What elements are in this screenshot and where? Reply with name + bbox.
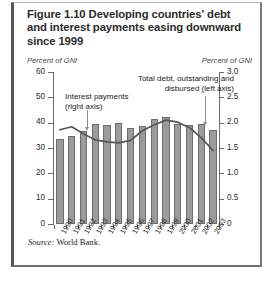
annotation-interest-line2: (right axis) (65, 102, 102, 111)
left-tick-label-60: 60 (23, 67, 45, 76)
annotation-total-line2: disbursed (left axis) (165, 84, 234, 93)
left-axis-unit-label: Percent of GNI (27, 56, 77, 65)
right-tick-label-1.0: 1.0 (227, 168, 238, 177)
right-tick-label-0.5: 0.5 (227, 193, 238, 202)
left-tick-20 (48, 173, 53, 174)
left-tick-label-30: 30 (23, 143, 45, 152)
right-tick-2.5 (219, 97, 224, 98)
leader-line-total (205, 96, 206, 123)
source-note: Source: World Bank. (28, 237, 100, 247)
left-tick-label-50: 50 (23, 92, 45, 101)
figure-title: Figure 1.10 Developing countries' debt a… (27, 8, 253, 48)
left-tick-label-10: 10 (23, 193, 45, 202)
leader-arrow-total (203, 122, 207, 126)
left-tick-label-20: 20 (23, 168, 45, 177)
left-tick-label-40: 40 (23, 117, 45, 126)
annotation-interest-line1: Interest payments (65, 92, 129, 101)
left-tick-30 (48, 148, 53, 149)
leader-line-interest (87, 110, 88, 128)
source-prefix: Source: (28, 237, 54, 247)
left-tick-50 (48, 97, 53, 98)
right-tick-label-1.5: 1.5 (227, 143, 238, 152)
annotation-total-line1: Total debt, outstanding and (138, 74, 234, 83)
right-tick-1.0 (219, 173, 224, 174)
right-tick-3.0 (219, 72, 224, 73)
figure-panel: Figure 1.10 Developing countries' debt a… (11, 2, 262, 267)
right-tick-1.5 (219, 148, 224, 149)
right-axis-unit-label: Percent of GNI (202, 56, 252, 65)
right-tick-2.0 (219, 123, 224, 124)
right-tick-label-0: 0 (227, 219, 232, 228)
leader-arrow-interest (85, 127, 89, 131)
left-tick-label-0: 0 (23, 219, 45, 228)
x-tick (54, 225, 55, 229)
left-tick-0 (48, 224, 53, 225)
annotation-total-debt: Total debt, outstanding and disbursed (l… (132, 74, 234, 93)
left-tick-40 (48, 123, 53, 124)
left-tick-60 (48, 72, 53, 73)
right-tick-label-2.0: 2.0 (227, 117, 238, 126)
annotation-interest-payments: Interest payments (right axis) (65, 92, 129, 111)
right-tick-0.5 (219, 199, 224, 200)
left-tick-10 (48, 199, 53, 200)
source-text: World Bank. (54, 237, 100, 247)
